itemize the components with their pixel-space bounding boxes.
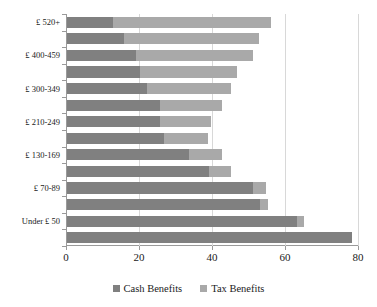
y-tick [62, 180, 66, 181]
y-tick [62, 113, 66, 114]
bar-segment-cash-benefits[interactable] [67, 166, 209, 177]
bar-row[interactable] [67, 182, 266, 193]
y-tick [62, 130, 66, 131]
legend-swatch-icon [200, 285, 207, 292]
bar-chart: 020406080 £ 520+£ 400-459£ 300-349£ 210-… [0, 0, 377, 307]
bar-segment-tax-benefits[interactable] [113, 17, 272, 28]
bar-segment-cash-benefits[interactable] [67, 133, 164, 144]
y-tick [62, 47, 66, 48]
bar-row[interactable] [67, 133, 208, 144]
bar-segment-cash-benefits[interactable] [67, 149, 189, 160]
bar-row[interactable] [67, 83, 231, 94]
bar-row[interactable] [67, 232, 352, 243]
y-tick [62, 196, 66, 197]
y-axis-label-520: £ 520+ [36, 17, 60, 27]
y-axis-label-70-89: £ 70-89 [34, 183, 60, 193]
y-tick [62, 14, 66, 15]
bar-segment-tax-benefits[interactable] [136, 50, 253, 61]
bar-row[interactable] [67, 166, 231, 177]
y-tick [62, 229, 66, 230]
bar-row[interactable] [67, 50, 253, 61]
y-axis-label-300-349: £ 300-349 [25, 84, 60, 94]
bar-row[interactable] [67, 17, 271, 28]
bar-row[interactable] [67, 100, 222, 111]
bar-segment-cash-benefits[interactable] [67, 216, 297, 227]
x-tick-label-20: 20 [134, 251, 145, 263]
bar-segment-cash-benefits[interactable] [67, 116, 160, 127]
bar-segment-cash-benefits[interactable] [67, 232, 352, 243]
legend-item-cash-benefits[interactable]: Cash Benefits [113, 283, 183, 294]
y-tick [62, 147, 66, 148]
bar-segment-cash-benefits[interactable] [67, 199, 260, 210]
bar-segment-cash-benefits[interactable] [67, 83, 147, 94]
y-tick [62, 163, 66, 164]
x-tick-20 [139, 246, 140, 250]
bar-row[interactable] [67, 149, 222, 160]
bar-segment-tax-benefits[interactable] [253, 182, 266, 193]
x-tick-40 [212, 246, 213, 250]
y-tick [62, 31, 66, 32]
bar-segment-tax-benefits[interactable] [140, 66, 237, 77]
bar-segment-cash-benefits[interactable] [67, 50, 136, 61]
bar-segment-tax-benefits[interactable] [160, 100, 222, 111]
x-tick-60 [285, 246, 286, 250]
x-tick-0 [66, 246, 67, 250]
y-tick [62, 64, 66, 65]
bar-segment-cash-benefits[interactable] [67, 33, 124, 44]
bar-segment-tax-benefits[interactable] [160, 116, 211, 127]
bar-segment-cash-benefits[interactable] [67, 100, 160, 111]
x-tick-label-40: 40 [207, 251, 218, 263]
bar-row[interactable] [67, 216, 304, 227]
y-tick [62, 80, 66, 81]
bar-row[interactable] [67, 116, 211, 127]
bar-segment-tax-benefits[interactable] [147, 83, 231, 94]
x-tick-label-0: 0 [63, 251, 69, 263]
bar-row[interactable] [67, 66, 237, 77]
gridline-80 [358, 14, 359, 246]
y-axis-label-under-50: Under £ 50 [22, 216, 60, 226]
bar-row[interactable] [67, 33, 259, 44]
legend-item-tax-benefits[interactable]: Tax Benefits [200, 283, 264, 294]
bar-segment-tax-benefits[interactable] [260, 199, 267, 210]
y-axis-label-210-249: £ 210-249 [25, 117, 60, 127]
bar-segment-tax-benefits[interactable] [124, 33, 259, 44]
bar-segment-cash-benefits[interactable] [67, 66, 140, 77]
plot-area [66, 14, 358, 246]
chart-legend: Cash BenefitsTax Benefits [0, 283, 377, 294]
bar-row[interactable] [67, 199, 268, 210]
y-axis-label-130-169: £ 130-169 [25, 150, 60, 160]
legend-label: Cash Benefits [124, 283, 183, 294]
x-tick-label-60: 60 [280, 251, 291, 263]
bar-segment-tax-benefits[interactable] [297, 216, 304, 227]
bar-segment-cash-benefits[interactable] [67, 182, 253, 193]
bar-segment-cash-benefits[interactable] [67, 17, 113, 28]
y-tick [62, 97, 66, 98]
y-axis-label-400-459: £ 400-459 [25, 50, 60, 60]
legend-label: Tax Benefits [211, 283, 264, 294]
x-tick-80 [358, 246, 359, 250]
bar-segment-tax-benefits[interactable] [164, 133, 208, 144]
y-tick [62, 213, 66, 214]
legend-swatch-icon [113, 285, 120, 292]
bar-segment-tax-benefits[interactable] [189, 149, 222, 160]
gridline-60 [285, 14, 286, 246]
y-tick [62, 246, 66, 247]
x-tick-label-80: 80 [353, 251, 364, 263]
bar-segment-tax-benefits[interactable] [209, 166, 231, 177]
